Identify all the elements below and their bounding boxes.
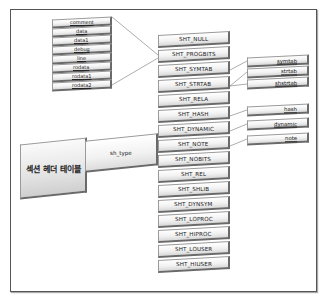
section-header-table-box: 섹션 헤더 테이블 — [20, 137, 87, 199]
